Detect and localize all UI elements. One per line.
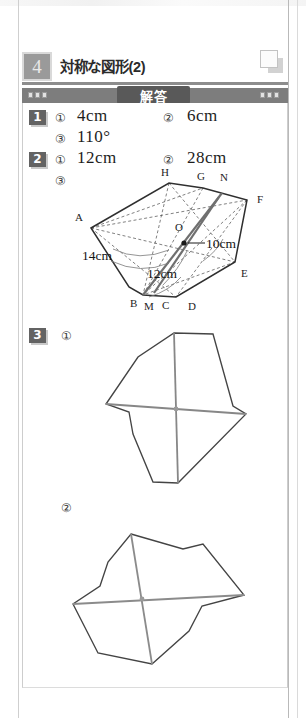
square-outline-shape <box>260 50 278 68</box>
hexagon-vertex-label-G: G <box>197 170 205 182</box>
hexagon-vertex-label-H: H <box>161 166 169 178</box>
overlapping-squares-icon <box>260 50 286 76</box>
hexagon-vertex-label-D: D <box>188 300 196 312</box>
point-symmetric-hexagon-diagram: A B C D E F G H N M O 10cm 12cm 14cm <box>51 165 289 310</box>
hexagon-dimension-14cm: 14cm <box>82 248 112 263</box>
figure-2-axis-lines <box>73 534 244 664</box>
problem-badge-2: 2 <box>29 152 46 167</box>
unit-header-rule <box>22 82 288 85</box>
scan-edge-smudge <box>0 0 306 6</box>
point-symmetric-figure-1 <box>81 328 271 498</box>
hexagon-vertex-label-C: C <box>162 299 169 311</box>
page-outer-rule <box>297 0 298 718</box>
problem-1-item-1-answer: 4cm <box>77 106 108 126</box>
answer-panel-body: 1 ① 4cm ② 6cm ③ 110° 2 ① 12cm ② 28cm ③ <box>22 103 288 688</box>
hexagon-vertex-label-A: A <box>75 211 83 223</box>
hexagon-dimension-12cm: 12cm <box>147 266 177 281</box>
point-symmetric-figure-2 <box>55 509 273 679</box>
answer-panel: 解答 1 ① 4cm ② 6cm ③ 110° 2 ① 12cm ② 28cm … <box>22 88 288 688</box>
hexagon-vertex-label-B: B <box>130 297 137 309</box>
hexagon-center-label-O: O <box>175 221 183 233</box>
hexagon-vertex-label-F: F <box>257 193 263 205</box>
dot-3 <box>274 92 279 98</box>
decorative-dots-left <box>28 92 47 98</box>
dot-1 <box>260 92 265 98</box>
dot-2 <box>267 92 272 98</box>
problem-badge-1: 1 <box>29 110 46 125</box>
answer-section-tab: 解答 <box>117 86 190 104</box>
unit-number-box: 4 <box>22 52 52 81</box>
problem-1-item-3-answer: 110° <box>77 127 111 147</box>
problem-badge-1-label: 1 <box>29 110 46 124</box>
answer-panel-header-bar: 解答 <box>22 88 288 103</box>
hexagon-vertex-label-N: N <box>220 171 228 183</box>
problem-1-item-2-marker: ② <box>163 111 174 125</box>
decorative-dots-right <box>260 92 279 98</box>
dot-2 <box>35 92 40 98</box>
hexagon-dimension-10cm: 10cm <box>206 236 236 251</box>
problem-badge-3: 3 <box>29 328 46 343</box>
problem-3-item-1-marker: ① <box>61 329 72 343</box>
problem-1-item-3-marker: ③ <box>55 132 66 146</box>
problem-badge-2-label: 2 <box>29 152 46 166</box>
hexagon-center-point <box>181 240 186 245</box>
figure-1-center-point <box>174 407 179 412</box>
hexagon-vertex-label-M: M <box>144 300 154 312</box>
dot-1 <box>28 92 33 98</box>
problem-1-item-2-answer: 6cm <box>187 106 218 126</box>
page-title: 対称な図形(2) <box>60 55 145 76</box>
unit-header: 4 対称な図形(2) <box>22 52 288 84</box>
unit-number: 4 <box>24 56 50 78</box>
page-right-rule <box>288 0 289 718</box>
problem-1-item-1-marker: ① <box>55 111 66 125</box>
hexagon-vertex-label-E: E <box>241 267 248 279</box>
problem-badge-3-label: 3 <box>29 328 46 342</box>
figure-2-center-point <box>140 597 145 602</box>
page-left-rule <box>18 0 19 718</box>
dot-3 <box>42 92 47 98</box>
